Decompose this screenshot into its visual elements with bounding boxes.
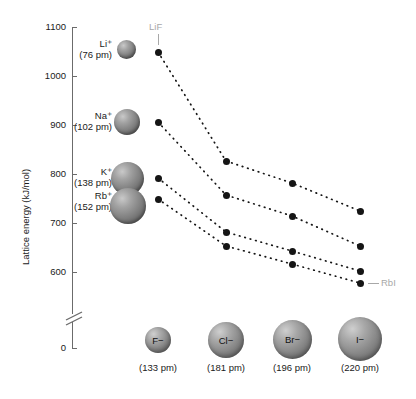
cation-radius-k: (138 pm) (50, 177, 112, 188)
y-tick-1100 (72, 27, 77, 28)
cation-radius-rb: (152 pm) (50, 201, 112, 212)
anion-symbol-br: Br− (285, 334, 300, 345)
y-tick-label-0: 0 (26, 342, 66, 353)
data-point-lif (155, 49, 162, 56)
cation-label-rb: Rb⁺ (152 pm) (50, 190, 112, 212)
data-point-licl (223, 158, 230, 165)
annotation-lif: LiF (149, 21, 162, 32)
anion-sphere-i: I− (338, 317, 382, 361)
data-point-kf (155, 175, 162, 182)
y-tick-label-1100: 1100 (26, 21, 66, 32)
y-tick-600 (72, 272, 77, 273)
data-point-rbf (155, 196, 162, 203)
anion-symbol-f: F− (152, 335, 163, 346)
cation-symbol-rb: Rb⁺ (50, 190, 112, 201)
data-point-rbcl (223, 243, 230, 250)
y-tick-700 (72, 223, 77, 224)
data-point-lii (357, 208, 364, 215)
y-tick-label-1000: 1000 (26, 70, 66, 81)
anion-sphere-cl: Cl− (208, 322, 244, 358)
y-tick-1000 (72, 76, 77, 77)
cation-sphere-rb (110, 188, 146, 224)
axis-break-icon (64, 306, 84, 330)
data-point-nai (357, 243, 364, 250)
cation-symbol-li: Li⁺ (56, 38, 112, 49)
data-point-rbbr (289, 261, 296, 268)
data-point-nabr (289, 213, 296, 220)
anion-symbol-i: I− (356, 334, 364, 345)
anion-radius-br: (196 pm) (262, 362, 322, 373)
data-point-naf (155, 119, 162, 126)
annotation-lif-leader (158, 34, 159, 45)
cation-label-na: Na⁺ (102 pm) (50, 110, 112, 132)
y-tick-label-600: 600 (26, 266, 66, 277)
cation-symbol-na: Na⁺ (50, 110, 112, 121)
y-tick-0 (72, 348, 77, 349)
anion-radius-cl: (181 pm) (196, 362, 256, 373)
data-point-kbr (289, 248, 296, 255)
data-point-rbi (357, 280, 364, 287)
anion-radius-i: (220 pm) (330, 362, 390, 373)
data-point-libr (289, 180, 296, 187)
y-axis-title: Lattice energy (kJ/mol) (20, 169, 31, 265)
cation-sphere-li (117, 40, 136, 59)
cation-symbol-k: K⁺ (50, 166, 112, 177)
anion-radius-f: (133 pm) (128, 362, 188, 373)
anion-sphere-f: F− (145, 327, 171, 353)
cation-label-k: K⁺ (138 pm) (50, 166, 112, 188)
cation-label-li: Li⁺ (76 pm) (56, 38, 112, 60)
annotation-rbi: RbI (381, 277, 396, 288)
data-point-ki (357, 268, 364, 275)
annotation-rbi-leader (368, 283, 379, 284)
cation-sphere-na (114, 109, 140, 135)
cation-radius-na: (102 pm) (50, 121, 112, 132)
lattice-energy-chart: 1100 1000 900 800 700 600 0 Lattice ener… (0, 0, 416, 399)
anion-sphere-br: Br− (273, 320, 312, 359)
cation-radius-li: (76 pm) (56, 49, 112, 60)
anion-symbol-cl: Cl− (219, 335, 234, 346)
data-point-nacl (223, 192, 230, 199)
y-tick-label-700: 700 (26, 217, 66, 228)
data-point-kcl (223, 229, 230, 236)
